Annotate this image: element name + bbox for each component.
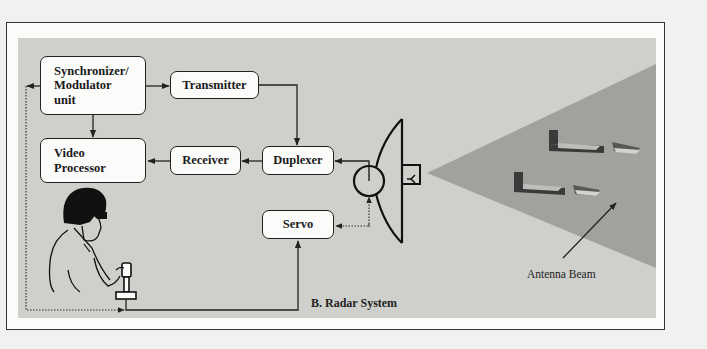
synchronizer-modulator-block: Synchronizer/ Modulator unit bbox=[40, 56, 146, 115]
transmitter-label: Transmitter bbox=[182, 78, 246, 92]
transmitter-block: Transmitter bbox=[170, 71, 259, 99]
receiver-block: Receiver bbox=[170, 146, 241, 175]
video-processor-label: Video Processor bbox=[54, 146, 106, 175]
joystick-icon bbox=[116, 263, 136, 299]
antenna-beam bbox=[427, 64, 656, 268]
receiver-label: Receiver bbox=[182, 153, 229, 167]
video-processor-block: Video Processor bbox=[40, 138, 146, 183]
antenna-beam-label: Antenna Beam bbox=[527, 268, 596, 280]
duplexer-block: Duplexer bbox=[262, 146, 334, 175]
operator-icon bbox=[50, 188, 121, 292]
servo-block: Servo bbox=[262, 210, 334, 239]
synchronizer-modulator-label: Synchronizer/ Modulator unit bbox=[54, 64, 129, 107]
servo-label: Servo bbox=[283, 217, 314, 231]
diagram-title: B. Radar System bbox=[311, 296, 397, 311]
antenna-dish-icon bbox=[354, 119, 420, 243]
duplexer-label: Duplexer bbox=[273, 153, 322, 167]
